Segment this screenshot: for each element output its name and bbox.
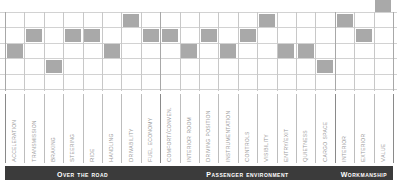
rating-marker [259,14,275,28]
category-label-cell: Interior [335,94,354,163]
column-gridline [63,12,64,91]
column-gridline [24,12,25,91]
category-label: Braking [48,137,57,162]
group-band-strip: Over The RoadPassenger EnvironmentWorkma… [0,163,397,182]
group-band-3: Workmanship [335,166,393,180]
category-label: Instrumentation [223,111,232,162]
column-separator [121,94,122,163]
category-label: Drivability [126,128,135,162]
rating-marker [123,14,139,28]
column-separator [63,94,64,163]
category-label: Cargo Space [320,122,329,162]
group-band-2: Passenger Environment [160,166,335,180]
column-separator [180,94,181,163]
rating-marker [162,29,178,43]
rating-marker [337,14,353,28]
column-gridline [238,12,239,91]
category-label-cell: Comfort/Conven. [160,94,179,163]
category-label: Controls [242,131,251,162]
category-label-cell: Driving Position [199,94,218,163]
column-gridline [354,12,355,91]
rating-marker [317,60,333,74]
category-label-cell: Acceleration [5,94,24,163]
column-separator [354,94,355,163]
category-label-cell: Visibility [257,94,276,163]
column-gridline [83,12,84,91]
category-label-cell: Exterior [354,94,373,163]
category-label: Entry/Exit [281,129,290,162]
column-separator [296,94,297,163]
category-label: Transmission [29,120,38,162]
category-label-cell: Quietness [296,94,315,163]
column-gridline [315,12,316,91]
group-band-label: Over The Road [57,168,108,179]
rating-marker [143,29,159,43]
rating-marker [278,44,294,58]
category-label-cell: Cargo Space [315,94,334,163]
category-label-cell: Transmission [24,94,43,163]
category-label: Exterior [358,134,367,162]
category-label-cell: Braking [44,94,63,163]
rating-marker [375,0,391,12]
column-gridline [141,12,142,91]
category-label-cell: Fuel Economy [141,94,160,163]
category-label-cell: Controls [238,94,257,163]
category-label: Interior Room [184,117,193,162]
column-separator [199,94,200,163]
category-label: Ride [87,148,96,162]
column-gridline [199,12,200,91]
group-divider-line [160,12,161,91]
category-label-cell: Entry/Exit [277,94,296,163]
group-band-1: Over The Road [5,166,160,180]
column-separator [315,94,316,163]
column-separator [257,94,258,163]
column-gridline [44,12,45,91]
category-label: Acceleration [9,120,18,162]
column-separator [44,94,45,163]
column-separator [238,94,239,163]
rating-marker [298,44,314,58]
category-label: Steering [67,134,76,162]
group-divider-line [393,12,394,91]
column-separator [218,94,219,163]
group-divider-line [335,94,336,163]
rating-marker [104,44,120,58]
category-label-strip: AccelerationTransmissionBrakingSteeringR… [0,94,397,163]
category-label-cell: Instrumentation [218,94,237,163]
rating-marker [201,29,217,43]
rating-marker [26,29,42,43]
rating-marker [181,44,197,58]
category-label-cell: Interior Room [180,94,199,163]
category-label: Quietness [300,130,309,162]
rating-marker [7,44,23,58]
group-band-label: Passenger Environment [206,168,288,179]
rating-marker [220,44,236,58]
group-divider-line [5,94,6,163]
category-label: Visibility [261,134,270,162]
category-label: Fuel Economy [145,118,154,162]
category-label-cell: Drivability [121,94,140,163]
category-label: Driving Position [203,110,212,162]
group-divider-line [160,94,161,163]
category-label-cell: Handling [102,94,121,163]
rating-grid-chart: AccelerationTransmissionBrakingSteeringR… [0,0,397,182]
column-separator [83,94,84,163]
category-label-cell: Value [374,94,393,163]
group-band-label: Workmanship [341,168,387,179]
column-gridline [374,12,375,91]
rating-marker [65,29,81,43]
category-label-cell: Ride [83,94,102,163]
category-label: Value [378,144,387,162]
plot-area [0,0,397,94]
rating-marker [84,29,100,43]
category-label-cell: Steering [63,94,82,163]
column-separator [141,94,142,163]
group-divider-line [393,94,394,163]
rating-marker [240,29,256,43]
category-label: Interior [339,136,348,162]
column-separator [277,94,278,163]
rating-marker [356,29,372,43]
column-separator [102,94,103,163]
column-separator [24,94,25,163]
column-separator [374,94,375,163]
